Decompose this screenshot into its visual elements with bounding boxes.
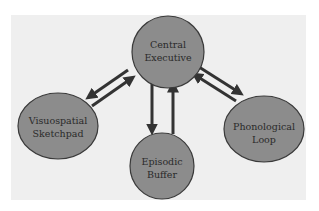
working-memory-diagram: Central Executive Visuospatial Sketchpad… — [0, 0, 319, 211]
node-central-executive: Central Executive — [132, 16, 204, 88]
node-label-line2: Loop — [252, 134, 276, 145]
node-label-line1: Visuospatial — [28, 115, 88, 126]
node-label-line2: Buffer — [147, 169, 177, 180]
node-label-line2: Executive — [144, 52, 192, 63]
node-label-line1: Central — [150, 39, 186, 50]
node-phonological-loop: Phonological Loop — [224, 96, 304, 162]
node-episodic-buffer: Episodic Buffer — [130, 133, 194, 199]
node-visuospatial-sketchpad: Visuospatial Sketchpad — [18, 93, 98, 159]
node-label-line1: Episodic — [141, 156, 182, 167]
node-label-line1: Phonological — [233, 121, 295, 132]
node-label-line2: Sketchpad — [33, 128, 84, 139]
